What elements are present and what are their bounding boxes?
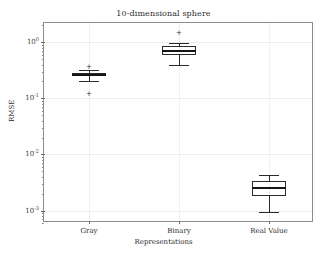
y-tick-minor (42, 223, 44, 224)
y-tick-label: 10-3 (25, 207, 39, 215)
gridline-horizontal (44, 154, 312, 155)
cap-lower (79, 81, 99, 82)
plot-area: 10010-110-210-3 GrayBinaryReal Value +++ (43, 22, 313, 222)
y-tick-minor (42, 111, 44, 112)
y-tick-minor (42, 184, 44, 185)
boxplot-figure: 10-dimensional sphere RMSE Representatio… (0, 0, 327, 253)
y-tick-minor (42, 65, 44, 66)
y-tick-minor (42, 128, 44, 129)
y-tick-minor (42, 48, 44, 49)
median-line (252, 187, 286, 189)
y-tick-minor (42, 213, 44, 214)
median-line (72, 74, 106, 76)
outlier-marker: + (86, 91, 92, 98)
x-tick-major (89, 221, 90, 224)
cap-lower (259, 212, 279, 213)
y-tick-minor (42, 167, 44, 168)
y-tick-major (41, 154, 45, 155)
y-tick-minor (42, 59, 44, 60)
gridline-horizontal (44, 98, 312, 99)
y-tick-minor (42, 157, 44, 158)
x-tick-label-real-value: Real Value (250, 227, 288, 235)
y-tick-label: 10-1 (25, 94, 39, 102)
outlier-marker: + (86, 64, 92, 71)
median-line (162, 50, 196, 52)
y-tick-minor (42, 115, 44, 116)
y-tick-minor (42, 55, 44, 56)
y-tick-minor (42, 121, 44, 122)
cap-upper (259, 175, 279, 176)
y-tick-minor (42, 81, 44, 82)
x-tick-major (269, 221, 270, 224)
y-tick-major (41, 42, 45, 43)
y-tick-label: 100 (27, 38, 39, 46)
x-tick-label-binary: Binary (167, 227, 190, 235)
y-tick-minor (42, 101, 44, 102)
x-axis-label: Representations (0, 238, 327, 246)
whisker-lower (179, 55, 180, 66)
y-tick-minor (42, 160, 44, 161)
y-tick-minor (42, 107, 44, 108)
y-tick-major (41, 98, 45, 99)
y-tick-minor (42, 51, 44, 52)
y-tick-minor (42, 72, 44, 73)
page-title: 10-dimensional sphere (0, 9, 327, 18)
gridline-vertical (89, 23, 90, 221)
y-tick-label: 10-2 (25, 150, 39, 158)
cap-lower (169, 65, 189, 66)
outlier-marker: + (176, 30, 182, 37)
y-tick-minor (42, 171, 44, 172)
cap-upper (169, 43, 189, 44)
x-tick-label-gray: Gray (80, 227, 97, 235)
y-tick-minor (42, 177, 44, 178)
y-tick-minor (42, 216, 44, 217)
y-tick-minor (42, 163, 44, 164)
y-axis-label: RMSE (8, 100, 16, 122)
whisker-lower (269, 196, 270, 212)
y-tick-minor (42, 138, 44, 139)
y-tick-minor (42, 25, 44, 26)
x-tick-major (179, 221, 180, 224)
y-tick-minor (42, 104, 44, 105)
y-tick-minor (42, 194, 44, 195)
y-tick-major (41, 211, 45, 212)
y-tick-minor (42, 45, 44, 46)
y-tick-minor (42, 219, 44, 220)
